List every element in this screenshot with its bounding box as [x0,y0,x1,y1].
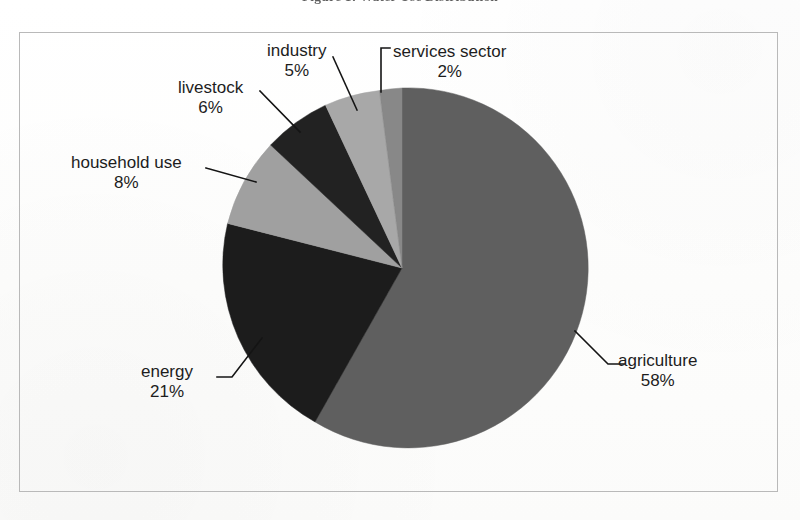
callout-energy-label: energy [141,362,193,382]
callout-livestock-percent: 6% [178,98,243,118]
callout-industry-percent: 5% [267,61,327,81]
callout-industry: industry 5% [267,41,327,81]
leader-line-services-sector [381,48,390,92]
callout-services-sector-percent: 2% [393,62,506,82]
callout-industry-label: industry [267,41,327,61]
callout-household-use-percent: 8% [71,173,182,193]
leader-line-agriculture [575,331,624,364]
callout-livestock: livestock 6% [178,78,243,118]
callout-agriculture-label: agriculture [618,351,697,371]
callout-livestock-label: livestock [178,78,243,98]
callout-household-use: household use 8% [71,153,182,193]
callout-household-use-label: household use [71,153,182,173]
callout-agriculture: agriculture 58% [618,351,697,391]
callout-energy-percent: 21% [141,382,193,402]
callout-agriculture-percent: 58% [618,371,697,391]
leader-line-livestock [260,91,300,132]
callout-energy: energy 21% [141,362,193,402]
callout-services-sector: services sector 2% [393,42,506,82]
pie-chart-screenshot: Figure 1: Water Use Distribution [0,0,800,520]
pie-slices [223,88,588,448]
callout-services-sector-label: services sector [393,42,506,62]
